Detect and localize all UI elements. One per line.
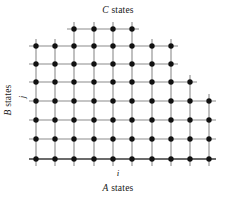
lattice-node[interactable] bbox=[206, 117, 211, 122]
lattice-node[interactable] bbox=[71, 43, 76, 48]
lattice-node[interactable] bbox=[187, 136, 192, 141]
lattice-node[interactable] bbox=[129, 43, 134, 48]
lattice-node[interactable] bbox=[91, 26, 96, 31]
bottom-axis-label: A states bbox=[0, 183, 236, 193]
lattice-node[interactable] bbox=[110, 26, 115, 31]
lattice-node[interactable] bbox=[71, 61, 76, 66]
lattice-node[interactable] bbox=[168, 156, 173, 161]
lattice-node[interactable] bbox=[71, 26, 76, 31]
lattice-node[interactable] bbox=[110, 61, 115, 66]
lattice-node[interactable] bbox=[149, 117, 154, 122]
lattice-node[interactable] bbox=[33, 43, 38, 48]
lattice-node[interactable] bbox=[129, 136, 134, 141]
lattice-node[interactable] bbox=[52, 98, 57, 103]
lattice-node[interactable] bbox=[129, 117, 134, 122]
lattice-node[interactable] bbox=[91, 98, 96, 103]
lattice-node[interactable] bbox=[91, 117, 96, 122]
lattice-node[interactable] bbox=[168, 98, 173, 103]
lattice-node[interactable] bbox=[168, 43, 173, 48]
lattice-node[interactable] bbox=[52, 156, 57, 161]
lattice-node[interactable] bbox=[71, 136, 76, 141]
lattice-node[interactable] bbox=[71, 98, 76, 103]
lattice-node[interactable] bbox=[206, 156, 211, 161]
lattice-node[interactable] bbox=[91, 136, 96, 141]
lattice-node[interactable] bbox=[33, 98, 38, 103]
lattice-node[interactable] bbox=[52, 136, 57, 141]
lattice-node[interactable] bbox=[71, 117, 76, 122]
lattice-node[interactable] bbox=[33, 61, 38, 66]
lattice-node[interactable] bbox=[52, 79, 57, 84]
top-axis-label: C states bbox=[0, 5, 236, 15]
lattice-node[interactable] bbox=[52, 117, 57, 122]
lattice-node[interactable] bbox=[110, 117, 115, 122]
lattice-node[interactable] bbox=[110, 79, 115, 84]
lattice-node[interactable] bbox=[91, 61, 96, 66]
lattice-node[interactable] bbox=[110, 43, 115, 48]
lattice-node[interactable] bbox=[149, 98, 154, 103]
lattice-node[interactable] bbox=[206, 98, 211, 103]
lattice-node[interactable] bbox=[33, 136, 38, 141]
lattice-node[interactable] bbox=[110, 156, 115, 161]
lattice-node[interactable] bbox=[129, 61, 134, 66]
y-axis-symbol: j bbox=[17, 96, 27, 99]
lattice-node[interactable] bbox=[187, 98, 192, 103]
lattice-node[interactable] bbox=[129, 156, 134, 161]
lattice-node[interactable] bbox=[187, 79, 192, 84]
lattice-node[interactable] bbox=[149, 79, 154, 84]
lattice-node[interactable] bbox=[149, 61, 154, 66]
lattice-node[interactable] bbox=[91, 156, 96, 161]
x-axis-symbol: i bbox=[0, 168, 236, 178]
lattice-node[interactable] bbox=[110, 98, 115, 103]
lattice-node[interactable] bbox=[71, 156, 76, 161]
lattice-node[interactable] bbox=[33, 156, 38, 161]
lattice-node[interactable] bbox=[129, 98, 134, 103]
lattice-node[interactable] bbox=[168, 117, 173, 122]
lattice-node[interactable] bbox=[33, 117, 38, 122]
lattice-node[interactable] bbox=[110, 136, 115, 141]
lattice-node[interactable] bbox=[71, 79, 76, 84]
lattice-node[interactable] bbox=[149, 43, 154, 48]
lattice-node[interactable] bbox=[168, 136, 173, 141]
lattice-figure: C states i A states B states j bbox=[0, 0, 236, 200]
lattice-node[interactable] bbox=[91, 79, 96, 84]
lattice-node[interactable] bbox=[149, 136, 154, 141]
lattice-node[interactable] bbox=[187, 156, 192, 161]
lattice-node[interactable] bbox=[168, 79, 173, 84]
lattice-node[interactable] bbox=[129, 79, 134, 84]
lattice-node[interactable] bbox=[52, 61, 57, 66]
lattice-node[interactable] bbox=[33, 79, 38, 84]
lattice-node[interactable] bbox=[129, 26, 134, 31]
lattice-node[interactable] bbox=[187, 117, 192, 122]
lattice-node[interactable] bbox=[149, 156, 154, 161]
lattice-node[interactable] bbox=[52, 43, 57, 48]
left-axis-label: B states bbox=[3, 85, 13, 116]
lattice-node[interactable] bbox=[168, 61, 173, 66]
lattice-node[interactable] bbox=[91, 43, 96, 48]
lattice-node[interactable] bbox=[206, 136, 211, 141]
